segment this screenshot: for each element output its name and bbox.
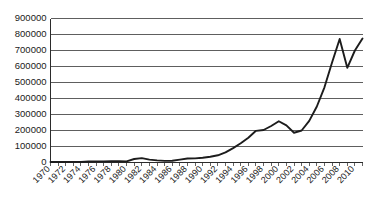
x-axis-tick-labels: 1970197219741976197819801982198419861988… (31, 164, 357, 185)
y-axis-tick-label: 400000 (15, 92, 47, 103)
line-chart: 9000008000007000006000005000004000003000… (0, 0, 374, 200)
y-axis-tick-label: 300000 (15, 108, 47, 119)
data-series-group (51, 39, 363, 163)
y-axis-tick-label: 700000 (15, 44, 47, 55)
y-axis-tick-label: 200000 (15, 124, 47, 135)
gridlines (51, 19, 363, 147)
y-axis-tick-label: 900000 (15, 12, 47, 23)
y-axis-tick-label: 500000 (15, 76, 47, 87)
y-axis-tick-labels: 9000008000007000006000005000004000003000… (15, 12, 47, 167)
y-axis-tick-label: 100000 (15, 140, 47, 151)
y-axis-tick-label: 800000 (15, 28, 47, 39)
chart-canvas: 9000008000007000006000005000004000003000… (0, 0, 374, 200)
x-axis-tick-label: 2010 (335, 164, 356, 185)
data-line (51, 39, 363, 163)
y-axis-tick-label: 600000 (15, 60, 47, 71)
